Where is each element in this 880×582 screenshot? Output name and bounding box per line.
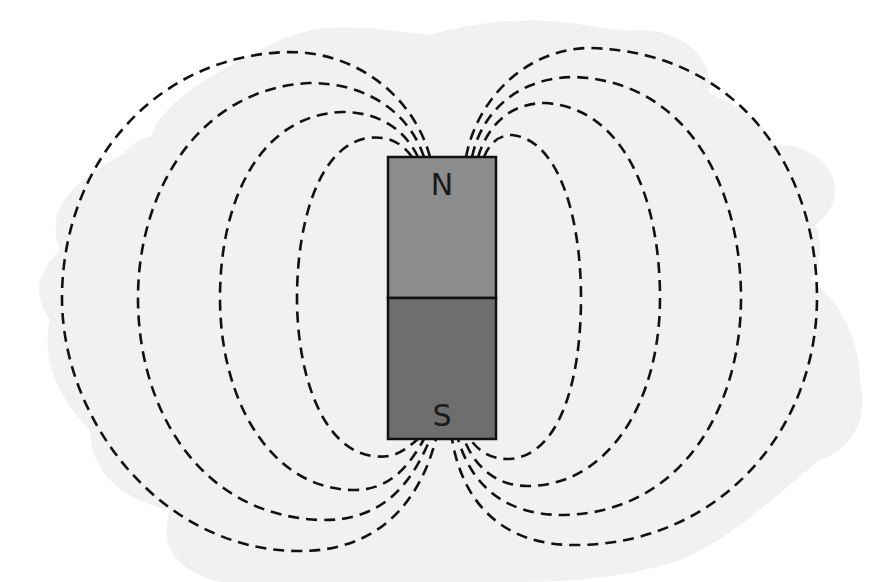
bar-magnet-diagram: N S: [0, 0, 880, 582]
south-pole-label: S: [432, 398, 451, 433]
bar-magnet: N S: [388, 157, 496, 439]
north-pole-label: N: [431, 167, 453, 202]
